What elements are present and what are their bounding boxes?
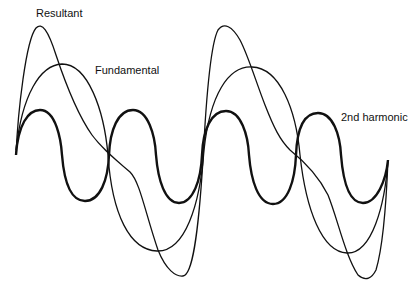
waveform-plot bbox=[0, 0, 413, 297]
waveform-diagram: Resultant Fundamental 2nd harmonic bbox=[0, 0, 413, 297]
second-harmonic-label: 2nd harmonic bbox=[341, 111, 408, 123]
second-harmonic-curve bbox=[16, 110, 388, 204]
resultant-label: Resultant bbox=[36, 7, 82, 19]
fundamental-label: Fundamental bbox=[95, 64, 159, 76]
